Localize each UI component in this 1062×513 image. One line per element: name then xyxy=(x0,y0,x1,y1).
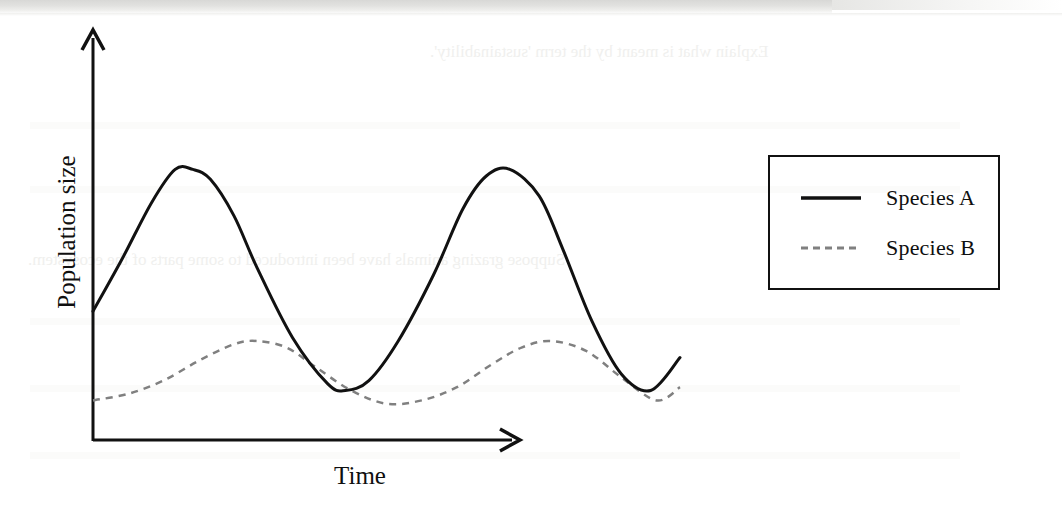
series-line-species-a xyxy=(93,167,680,392)
y-axis-label: Population size xyxy=(53,132,81,332)
legend-item-species-a: Species A xyxy=(770,173,998,223)
legend-label-species-b: Species B xyxy=(886,235,975,261)
legend-item-species-b: Species B xyxy=(770,223,998,273)
x-axis-label: Time xyxy=(270,462,450,490)
series-line-species-b xyxy=(93,341,680,404)
legend-swatch-dashed-line-icon xyxy=(800,241,862,255)
legend-label-species-a: Species A xyxy=(886,185,975,211)
diagram-page: Explain what is meant by the term 'susta… xyxy=(0,0,1062,513)
legend: Species A Species B xyxy=(768,155,1000,290)
legend-swatch-solid-line-icon xyxy=(800,191,862,205)
